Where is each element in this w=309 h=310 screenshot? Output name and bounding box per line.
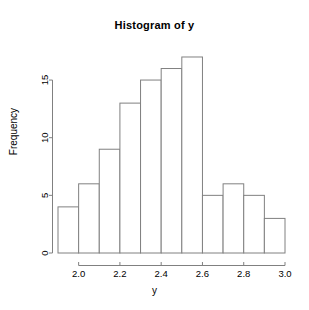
histogram-bar (161, 69, 182, 253)
histogram-bar (244, 195, 265, 253)
x-axis-tick-label: 2.4 (155, 268, 168, 279)
x-axis-tick-label: 2.2 (113, 268, 126, 279)
y-axis-tick-label: 0 (39, 250, 50, 255)
histogram-bar (202, 195, 223, 253)
histogram-bar (99, 149, 120, 253)
histogram-bar (182, 57, 203, 253)
chart-canvas: 051015 2.02.22.42.62.83.0 (0, 0, 309, 310)
histogram-bar (58, 207, 79, 253)
histogram-bar (264, 218, 285, 253)
x-axis-tick-label: 3.0 (278, 268, 291, 279)
histogram-bar (120, 103, 141, 253)
y-axis: 051015 (39, 75, 53, 256)
y-axis-tick-label: 5 (39, 193, 50, 198)
histogram-plot-panel: Histogram of y Frequency y 051015 2.02.2… (0, 0, 309, 310)
bars-group (58, 57, 285, 253)
histogram-bar (141, 80, 162, 253)
histogram-bar (79, 184, 100, 253)
x-axis: 2.02.22.42.62.83.0 (72, 262, 292, 279)
y-axis-tick-label: 15 (39, 75, 50, 86)
y-axis-tick-label: 10 (39, 132, 50, 143)
x-axis-tick-label: 2.8 (237, 268, 250, 279)
histogram-bar (223, 184, 244, 253)
x-axis-tick-label: 2.0 (72, 268, 85, 279)
x-axis-tick-label: 2.6 (196, 268, 209, 279)
